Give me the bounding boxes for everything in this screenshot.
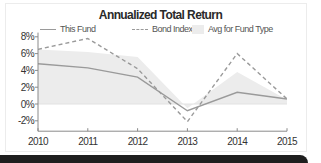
y-tick-label: 0% (21, 99, 35, 110)
series-area-avg-fund-type (38, 49, 287, 108)
x-tick-label: 2013 (177, 136, 198, 147)
y-tick-label: 8% (21, 31, 35, 42)
x-tick-label: 2015 (277, 136, 298, 147)
y-tick-label: -2% (18, 115, 35, 126)
y-tick-label: 6% (21, 48, 35, 59)
y-tick-label: 2% (21, 82, 35, 93)
footer-bar (0, 155, 308, 163)
x-tick-label: 2012 (128, 136, 149, 147)
x-tick-label: 2014 (227, 136, 248, 147)
x-tick-label: 2011 (78, 136, 98, 147)
y-tick-label: 4% (21, 65, 35, 76)
x-tick-label: 2010 (28, 136, 49, 147)
chart-plot: 8%6%4%2%0%-2%201020112012201320142015 (0, 0, 321, 163)
